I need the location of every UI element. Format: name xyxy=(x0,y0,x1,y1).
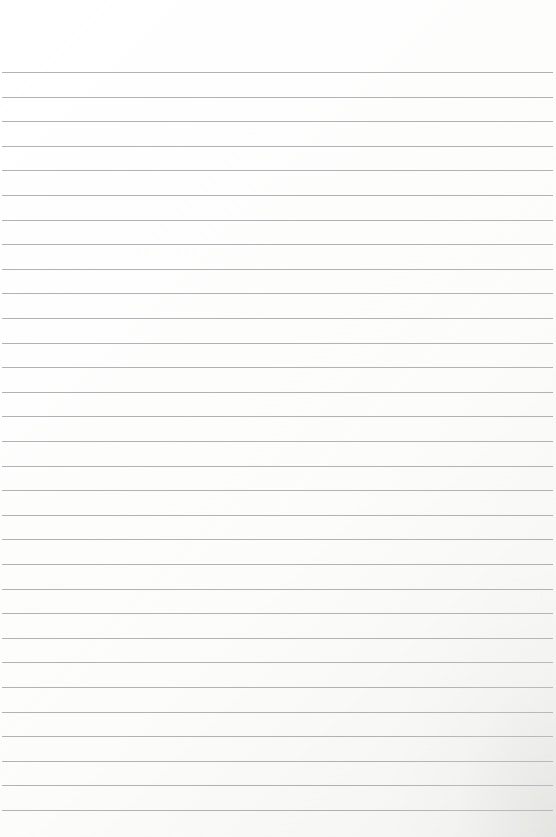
ruled-line xyxy=(2,490,553,491)
ruled-line xyxy=(2,736,553,737)
ruled-line xyxy=(2,392,553,393)
ruled-line xyxy=(2,121,553,122)
ruled-line xyxy=(2,662,553,663)
ruled-line xyxy=(2,466,553,467)
ruled-line xyxy=(2,761,553,762)
ruled-line xyxy=(2,220,553,221)
ruled-line xyxy=(2,810,553,811)
ruled-line xyxy=(2,539,553,540)
ruled-line xyxy=(2,269,553,270)
ruled-line xyxy=(2,589,553,590)
ruled-line xyxy=(2,638,553,639)
ruled-line xyxy=(2,564,553,565)
ruled-line xyxy=(2,515,553,516)
ruled-line xyxy=(2,687,553,688)
ruled-line xyxy=(2,613,553,614)
ruled-line xyxy=(2,293,553,294)
ruled-line xyxy=(2,416,553,417)
ruled-line xyxy=(2,441,553,442)
ruled-line xyxy=(2,785,553,786)
ruled-line xyxy=(2,318,553,319)
ruled-line xyxy=(2,170,553,171)
ruled-line xyxy=(2,195,553,196)
ruled-line xyxy=(2,146,553,147)
paper-shadow xyxy=(396,577,556,837)
ruled-line xyxy=(2,244,553,245)
ruled-line xyxy=(2,72,553,73)
ruled-line xyxy=(2,343,553,344)
ruled-line xyxy=(2,712,553,713)
ruled-line xyxy=(2,367,553,368)
ruled-line xyxy=(2,97,553,98)
lined-paper-page xyxy=(0,0,556,837)
